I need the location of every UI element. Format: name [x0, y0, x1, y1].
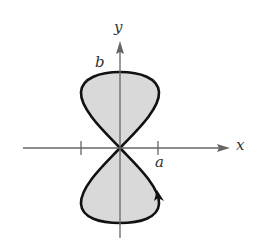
b-label: b — [95, 55, 105, 70]
y-axis-label: y — [114, 20, 122, 35]
x-axis-label: x — [236, 138, 244, 153]
a-label: a — [155, 155, 164, 170]
diagram-canvas — [0, 0, 257, 249]
figure: y b x a — [0, 0, 257, 249]
